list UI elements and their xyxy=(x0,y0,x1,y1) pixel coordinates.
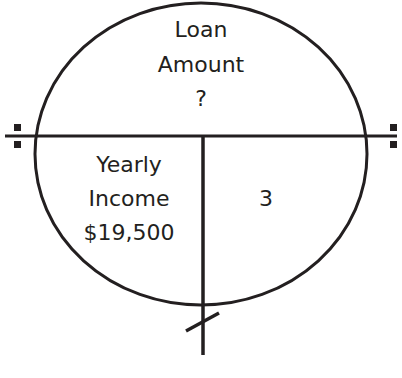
formula-circle-diagram: Loan Amount ? Yearly Income $19,500 3 xyxy=(0,0,402,378)
loan-unknown-value: ? xyxy=(195,86,207,111)
loan-label-line2: Amount xyxy=(158,52,245,77)
loan-label-line1: Loan xyxy=(175,17,228,42)
income-value: $19,500 xyxy=(84,220,175,245)
income-label-line1: Yearly xyxy=(95,152,162,177)
income-label-line2: Income xyxy=(89,186,170,211)
outer-circle xyxy=(35,3,367,305)
multiplier-value: 3 xyxy=(259,186,273,211)
